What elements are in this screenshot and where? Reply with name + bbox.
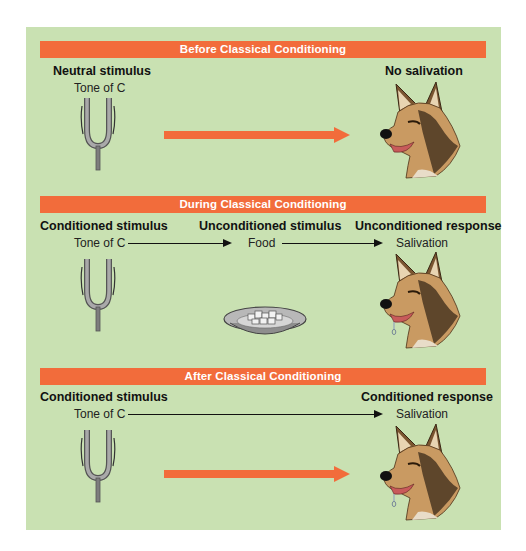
- tone-label: Tone of C: [74, 81, 125, 95]
- no-salivation-label: No salivation: [385, 64, 463, 78]
- arrow-icon: [282, 243, 381, 244]
- conditioned-response-label: Conditioned response: [361, 390, 493, 404]
- unconditioned-response-label: Unconditioned response: [355, 219, 502, 233]
- section-header-after: After Classical Conditioning: [40, 368, 486, 385]
- salivation-label: Salivation: [396, 236, 448, 250]
- orange-arrow-icon: [164, 466, 350, 482]
- section-header-before: Before Classical Conditioning: [40, 41, 486, 58]
- salivating-dog-head-icon: [378, 252, 464, 350]
- orange-arrow-icon: [164, 127, 350, 143]
- arrow-icon: [128, 414, 381, 415]
- food-bowl-icon: [222, 303, 308, 339]
- salivation-label: Salivation: [396, 407, 448, 421]
- unconditioned-stimulus-label: Unconditioned stimulus: [199, 219, 341, 233]
- arrow-icon: [128, 243, 230, 244]
- section-header-during: During Classical Conditioning: [40, 196, 486, 213]
- conditioned-stimulus-label: Conditioned stimulus: [40, 219, 168, 233]
- tuning-fork-icon: [80, 96, 116, 176]
- dog-head-icon: [378, 82, 464, 180]
- food-label: Food: [248, 236, 275, 250]
- tuning-fork-icon: [80, 428, 116, 508]
- tone-label: Tone of C: [74, 236, 125, 250]
- conditioned-stimulus-label: Conditioned stimulus: [40, 390, 168, 404]
- neutral-stimulus-label: Neutral stimulus: [53, 64, 151, 78]
- tuning-fork-icon: [80, 257, 116, 337]
- salivating-dog-head-icon: [378, 424, 464, 522]
- tone-label: Tone of C: [74, 407, 125, 421]
